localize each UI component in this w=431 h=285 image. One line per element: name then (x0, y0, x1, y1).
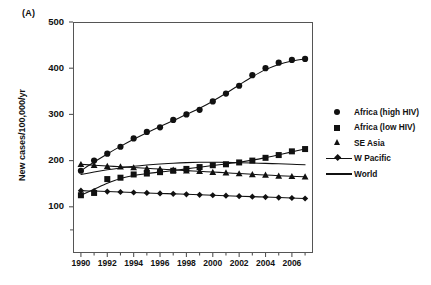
y-tick-500: 500 (30, 16, 64, 27)
legend-label: Africa (low HIV) (352, 122, 415, 132)
square-marker-icon (326, 120, 352, 135)
square-icon (334, 125, 340, 131)
diamond-marker-icon (326, 151, 352, 166)
diamond-icon (334, 154, 342, 162)
legend-label: Africa (high HIV) (352, 107, 419, 117)
legend-line-icon (326, 173, 352, 174)
y-tick-400: 400 (30, 62, 64, 73)
legend-item-se-asia[interactable]: SE Asia (326, 135, 419, 151)
triangle-marker-icon (326, 135, 352, 150)
y-tick-300: 300 (30, 108, 64, 119)
none-marker-icon (326, 166, 352, 181)
triangle-icon (334, 139, 340, 145)
legend-label: SE Asia (352, 138, 385, 148)
legend-item-africa-high-hiv[interactable]: Africa (high HIV) (326, 104, 419, 120)
legend-item-world[interactable]: World (326, 166, 419, 182)
legend-item-africa-low-hiv[interactable]: Africa (low HIV) (326, 120, 419, 136)
legend-label: W Pacific (352, 153, 391, 163)
y-tick-100: 100 (30, 200, 64, 211)
legend-item-w-pacific[interactable]: W Pacific (326, 151, 419, 167)
circle-marker-icon (326, 104, 352, 119)
circle-icon (334, 109, 340, 115)
figure-panel-a: (A) New cases/100,000/yr 500400300200100… (0, 0, 431, 285)
y-tick-200: 200 (30, 154, 64, 165)
chart-legend: Africa (high HIV)Africa (low HIV)SE Asia… (326, 104, 419, 182)
legend-label: World (352, 169, 377, 179)
x-tick-2006: 2006 (272, 258, 312, 268)
